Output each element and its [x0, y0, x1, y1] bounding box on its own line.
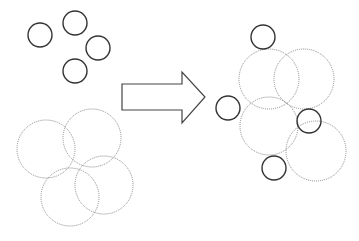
left-solid-circle-4: [63, 59, 87, 83]
right-solid-circle-1: [251, 25, 275, 49]
left-group-before: [17, 11, 133, 226]
left-solid-circle-1: [28, 23, 52, 47]
left-dotted-circle-4: [75, 156, 133, 214]
left-dotted-circle-3: [41, 168, 99, 226]
right-group-after: [216, 25, 346, 181]
left-solid-circle-2: [63, 11, 87, 35]
circles-transformation-diagram: [0, 0, 359, 241]
right-solid-circle-2: [216, 96, 240, 120]
right-arrow-icon: [122, 72, 205, 123]
left-dotted-circle-1: [17, 120, 75, 178]
right-dotted-circle-2: [274, 49, 334, 109]
right-solid-circle-4: [262, 156, 286, 180]
right-dotted-circle-1: [239, 49, 299, 109]
left-solid-circle-3: [86, 36, 110, 60]
